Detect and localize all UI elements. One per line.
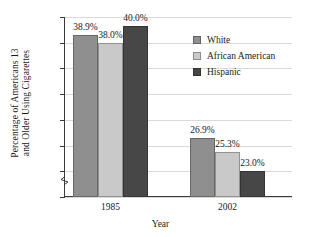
y-axis-tick-mark — [60, 120, 65, 121]
x-axis-title: Year — [0, 219, 321, 229]
y-axis-title-line-2: and Older Using Cigarettes — [21, 8, 32, 198]
legend-label: African American — [207, 51, 275, 61]
legend-label: White — [207, 35, 230, 45]
gridline — [64, 17, 292, 18]
bar-value-label: 25.3% — [215, 139, 240, 149]
y-axis-tick-mark — [60, 17, 65, 18]
y-axis-tick-mark — [60, 68, 65, 69]
legend-item: Hispanic — [193, 65, 275, 79]
gridline — [64, 197, 292, 198]
y-axis-tick-mark — [60, 94, 65, 95]
bar-value-label: 38.0% — [98, 30, 123, 40]
y-axis-line — [64, 17, 65, 197]
legend-swatch-icon — [193, 36, 201, 44]
legend-swatch-icon — [193, 52, 201, 60]
y-axis-tick-mark — [60, 146, 65, 147]
bar — [215, 152, 240, 197]
y-axis-tick-mark — [60, 43, 65, 44]
bar — [73, 35, 98, 197]
bar — [123, 26, 148, 197]
bar-value-label: 40.0% — [123, 13, 148, 23]
legend-swatch-icon — [193, 68, 201, 76]
legend-item: African American — [193, 49, 275, 63]
bar-value-label: 38.9% — [73, 22, 98, 32]
axis-break-icon — [60, 173, 69, 187]
y-axis-tick-mark — [60, 197, 65, 198]
bar — [240, 171, 265, 197]
bar — [98, 43, 123, 197]
bar — [190, 138, 215, 197]
bar-value-label: 23.0% — [240, 158, 265, 168]
legend-label: Hispanic — [207, 67, 241, 77]
y-axis-title: Percentage of Americans 13 and Older Usi… — [10, 8, 40, 198]
legend-item: White — [193, 33, 275, 47]
bar-chart: Percentage of Americans 13 and Older Usi… — [0, 0, 321, 237]
y-axis-title-line-1: Percentage of Americans 13 — [10, 8, 21, 198]
x-axis-tick-label: 1985 — [101, 202, 120, 212]
x-axis-tick-label: 2002 — [218, 202, 237, 212]
bar-value-label: 26.9% — [190, 125, 215, 135]
legend: WhiteAfrican AmericanHispanic — [193, 33, 275, 81]
